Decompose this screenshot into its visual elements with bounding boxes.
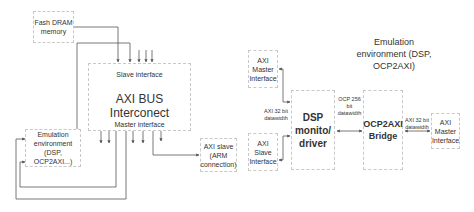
axi-master-interface-right-box: AXI Master Interface <box>431 113 460 149</box>
ocp2axi-bridge-label: OCP2AXI Bridge <box>363 118 403 142</box>
ocp-256-label: OCP 256 bit datawidth <box>336 96 363 117</box>
axi-master-interface-top-box: AXI Master Interface <box>248 50 278 88</box>
master-interface-label: Master interface <box>89 120 190 129</box>
axi-master-top-label: AXI Master Interface <box>249 56 277 83</box>
slave-interface-label: Slave interface <box>89 70 190 79</box>
axi-slave-arm-label: AXI slave (ARM connection) <box>200 142 236 169</box>
interconnect-title: AXI BUS Interconect <box>89 92 190 120</box>
emulation-title: Emulation environment (DSP, OCP2AXI) <box>350 36 438 72</box>
axi-slave-arm-box: AXI slave (ARM connection) <box>200 138 237 172</box>
axi-32-right-label: AXI 32 bit datawidth <box>402 117 432 131</box>
dram-memory-label: Fash DRAM memory <box>34 18 73 36</box>
axi-32-left-label: AXI 32 bit datawidth <box>262 108 290 122</box>
dsp-driver-label: DSP monito/ driver <box>292 111 334 150</box>
axi-slave-label: AXI Slave Interface <box>249 139 277 166</box>
ocp2axi-bridge-box: OCP2AXI Bridge <box>363 90 403 170</box>
axi-bus-interconnect-box: Slave interface AXI BUS Interconect Mast… <box>88 63 191 131</box>
axi-master-right-label: AXI Master Interface <box>432 118 459 145</box>
emulation-environment-box: Emulation environment (DSP, OCP2AXI...) <box>25 129 81 167</box>
emulation-environment-label: Emulation environment (DSP, OCP2AXI...) <box>27 130 79 166</box>
axi-slave-interface-box: AXI Slave Interface <box>248 133 278 171</box>
dram-memory-box: Fash DRAM memory <box>33 11 74 43</box>
dsp-driver-box: DSP monito/ driver <box>291 90 335 170</box>
